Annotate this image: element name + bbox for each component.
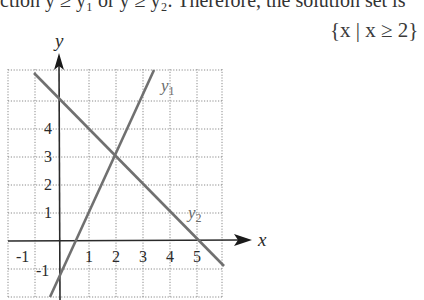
svg-text:2: 2 [112,248,120,265]
svg-text:1: 1 [44,204,52,221]
label-y1: y1 [159,76,175,98]
svg-text:4: 4 [166,248,174,265]
svg-text:1: 1 [85,248,93,265]
x-axis [8,240,240,241]
y-axis-label: y [53,30,64,51]
svg-text:3: 3 [44,148,52,165]
line-y2 [34,73,224,266]
svg-text:2: 2 [44,176,52,193]
label-y2: y2 [186,203,202,225]
svg-text:4: 4 [44,120,52,137]
svg-text:-1: -1 [36,262,49,279]
x-axis-label: x [257,229,267,250]
graph: x y -1 1 2 3 4 5 4 3 2 1 -1 y1 y2 [0,0,424,300]
svg-text:-1: -1 [16,248,29,265]
svg-text:5: 5 [193,248,201,265]
svg-text:3: 3 [139,248,147,265]
y-tick-labels: 4 3 2 1 -1 [36,120,52,279]
